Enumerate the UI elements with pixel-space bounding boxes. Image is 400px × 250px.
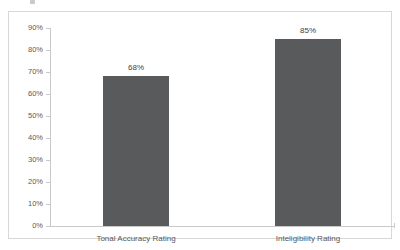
scan-speckle-artifact [30, 0, 35, 4]
bar[interactable] [103, 76, 169, 226]
y-axis-label: 40% [11, 134, 43, 142]
y-axis-label: 10% [11, 200, 43, 208]
y-axis-label: 90% [11, 24, 43, 32]
y-axis-label: 60% [11, 90, 43, 98]
category-axis-line [50, 226, 395, 227]
y-axis-label: 30% [11, 156, 43, 164]
y-axis-label: 80% [11, 46, 43, 54]
category-axis-end-tick [394, 223, 395, 228]
y-axis: 0%10%20%30%40%50%60%70%80%90% [9, 12, 50, 240]
plot-area [50, 28, 394, 226]
bar[interactable] [275, 39, 341, 226]
category-axis-label: Tonal Accuracy Rating [56, 235, 216, 243]
bar-value-label: 85% [268, 27, 348, 35]
y-axis-label: 20% [11, 178, 43, 186]
y-axis-label: 0% [11, 222, 43, 230]
bar-value-label: 68% [96, 64, 176, 72]
y-axis-label: 50% [11, 112, 43, 120]
chart-frame: 0%10%20%30%40%50%60%70%80%90% 68%Tonal A… [8, 11, 392, 239]
y-axis-label: 70% [11, 68, 43, 76]
category-axis-label: Inteligibility Rating [228, 235, 388, 243]
